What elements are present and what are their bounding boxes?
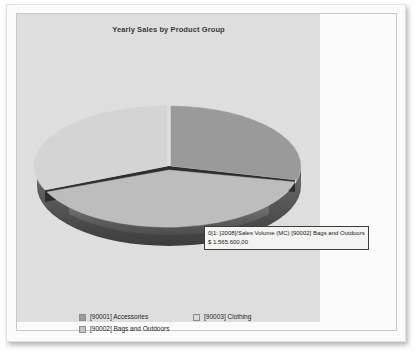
legend-item-clothing[interactable]: [90003] Clothing (193, 311, 251, 323)
legend-swatch-icon (193, 314, 200, 321)
scanned-page-sheet: Yearly Sales by Product Group (6, 4, 406, 342)
legend-item-bags-and-outdoors[interactable]: [90002] Bags and Outdoors (79, 323, 193, 335)
legend-item-accessories[interactable]: [90001] Accessories (79, 311, 193, 323)
legend-item-label: [90001] Accessories (90, 313, 148, 321)
legend-row: [90001] Accessories [90003] Clothing (79, 311, 319, 323)
chart-panel: Yearly Sales by Product Group (17, 14, 320, 322)
tooltip-line-2: $ 1.565.600,00 (208, 238, 365, 247)
data-point-tooltip: 0|1: [2008]/Sales Volume (MC) [90002] Ba… (204, 226, 369, 250)
tooltip-line-1: 0|1: [2008]/Sales Volume (MC) [90002] Ba… (208, 229, 365, 238)
legend-swatch-icon (79, 326, 86, 333)
legend-item-label: [90003] Clothing (204, 313, 251, 321)
legend-row: [90002] Bags and Outdoors (79, 323, 319, 335)
legend-item-label: [90002] Bags and Outdoors (90, 325, 170, 333)
chart-legend: [90001] Accessories [90003] Clothing [90… (79, 311, 319, 335)
chart-title: Yearly Sales by Product Group (17, 25, 320, 34)
legend-swatch-icon (79, 314, 86, 321)
